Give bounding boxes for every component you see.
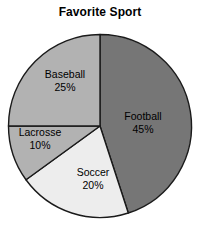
slice-label-lacrosse-name: Lacrosse	[6, 126, 74, 139]
slice-label-soccer: Soccer 20%	[58, 166, 128, 191]
slice-label-lacrosse-value: 10%	[6, 139, 74, 152]
slice-label-soccer-name: Soccer	[58, 166, 128, 179]
slice-label-football-name: Football	[108, 110, 178, 123]
slice-label-baseball-value: 25%	[30, 81, 100, 94]
slice-label-football-value: 45%	[108, 123, 178, 136]
pie-chart-figure: Favorite Sport Football 45% Soccer 20% L…	[0, 0, 200, 230]
slice-label-football: Football 45%	[108, 110, 178, 135]
slice-label-baseball: Baseball 25%	[30, 68, 100, 93]
slice-label-soccer-value: 20%	[58, 179, 128, 192]
slice-label-lacrosse: Lacrosse 10%	[6, 126, 74, 151]
slice-label-baseball-name: Baseball	[30, 68, 100, 81]
